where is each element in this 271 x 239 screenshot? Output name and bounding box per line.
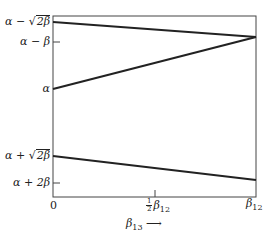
right-arrow-icon: ⟶ [146, 217, 162, 230]
label-prefix: α − [5, 15, 29, 28]
label-prefix: α + [5, 149, 29, 162]
subscript: 12 [252, 203, 262, 212]
label-alpha-minus-sqrt2beta: α − √2β [5, 15, 50, 28]
line-top [53, 22, 256, 37]
label-half-beta12: 12β12 [146, 198, 170, 216]
label-alpha: α [43, 83, 50, 95]
sqrt-radicand: 2β [36, 15, 50, 27]
energy-level-diagram: α − √2β α − β α α + √2β α + 2β 0 12β12 β… [0, 0, 271, 239]
label-alpha-plus-sqrt2beta: α + √2β [5, 149, 50, 162]
plot-frame [53, 16, 256, 197]
label-alpha-minus-beta: α − β [20, 36, 50, 48]
x-axis-variable: β13 ⟶ [126, 218, 162, 234]
line-bottom [53, 156, 256, 180]
label-beta12: β12 [246, 198, 263, 214]
frac-den: 2 [146, 206, 152, 213]
subscript: 12 [160, 205, 170, 214]
label-zero: 0 [50, 200, 57, 212]
fraction-half: 12 [146, 198, 152, 213]
label-alpha-plus-2beta: α + 2β [13, 177, 50, 189]
sqrt-radicand: 2β [36, 149, 50, 161]
line-alpha [53, 37, 256, 89]
subscript: 13 [132, 223, 142, 232]
